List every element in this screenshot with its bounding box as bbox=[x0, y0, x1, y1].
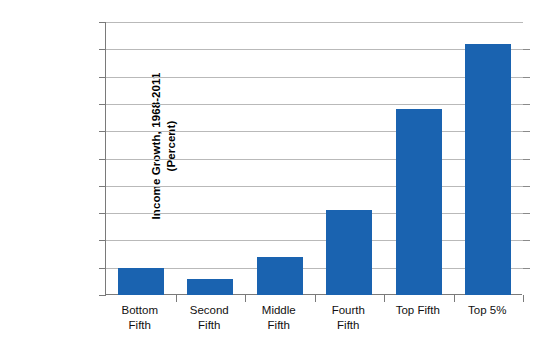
bar bbox=[187, 279, 233, 295]
x-axis-tick-mark bbox=[245, 295, 246, 302]
x-axis-tick-label: FourthFifth bbox=[314, 303, 384, 332]
y-axis-tick-mark-right bbox=[523, 159, 530, 160]
x-axis-tick-label-line-1: Top Fifth bbox=[396, 304, 440, 316]
x-axis-tick-mark bbox=[384, 295, 385, 302]
x-axis-tick-mark bbox=[315, 295, 316, 302]
x-axis-tick-label-line-2: Fifth bbox=[244, 318, 314, 333]
y-axis-tick-mark bbox=[99, 240, 106, 241]
x-axis-tick-label: SecondFifth bbox=[175, 303, 245, 332]
x-axis-tick-label-line-1: Middle bbox=[262, 304, 296, 316]
x-axis-tick-label: MiddleFifth bbox=[244, 303, 314, 332]
x-axis-tick-mark bbox=[176, 295, 177, 302]
y-axis-tick-mark bbox=[99, 295, 106, 296]
y-axis-tick-mark bbox=[99, 77, 106, 78]
y-axis-tick-mark-right bbox=[523, 213, 530, 214]
bar bbox=[257, 257, 303, 295]
y-axis-tick-mark-right bbox=[523, 240, 530, 241]
x-axis-tick-label-line-1: Second bbox=[190, 304, 229, 316]
y-axis-tick-mark-right bbox=[523, 49, 530, 50]
x-axis-tick-label-line-2: Fifth bbox=[314, 318, 384, 333]
y-axis-tick-mark-right bbox=[523, 186, 530, 187]
x-axis-tick-label-line-1: Top 5% bbox=[468, 304, 506, 316]
bar bbox=[396, 109, 442, 295]
bars-layer bbox=[106, 22, 523, 295]
bar bbox=[326, 210, 372, 295]
y-axis-tick-mark bbox=[99, 213, 106, 214]
x-axis-tick-label-line-2: Fifth bbox=[175, 318, 245, 333]
y-axis-tick-mark bbox=[99, 159, 106, 160]
y-axis-tick-mark bbox=[99, 268, 106, 269]
y-axis-tick-mark bbox=[99, 49, 106, 50]
x-axis-tick-label-line-1: Bottom bbox=[122, 304, 158, 316]
plot-area bbox=[105, 22, 522, 295]
x-axis-tick-labels: BottomFifthSecondFifthMiddleFifthFourthF… bbox=[105, 303, 522, 343]
bar-chart-figure: Income Growth, 1968-2011 (Percent) 01020… bbox=[0, 0, 546, 357]
y-axis-tick-mark-right bbox=[523, 104, 530, 105]
x-axis-tick-label: Top 5% bbox=[453, 303, 523, 318]
x-axis-tick-mark bbox=[454, 295, 455, 302]
y-axis-tick-mark-right bbox=[523, 131, 530, 132]
y-axis-tick-mark-right bbox=[523, 268, 530, 269]
y-axis-tick-mark-right bbox=[523, 77, 530, 78]
y-axis-tick-mark bbox=[99, 131, 106, 132]
x-axis-tick-label: BottomFifth bbox=[105, 303, 175, 332]
y-axis-tick-mark bbox=[99, 22, 106, 23]
bar bbox=[465, 44, 511, 295]
x-axis-tick-label-line-1: Fourth bbox=[332, 304, 365, 316]
x-axis-tick-mark bbox=[523, 295, 524, 302]
x-axis-tick-label-line-2: Fifth bbox=[105, 318, 175, 333]
y-axis-tick-mark bbox=[99, 186, 106, 187]
bar bbox=[118, 268, 164, 295]
x-axis-tick-label: Top Fifth bbox=[383, 303, 453, 318]
y-axis-tick-mark bbox=[99, 104, 106, 105]
